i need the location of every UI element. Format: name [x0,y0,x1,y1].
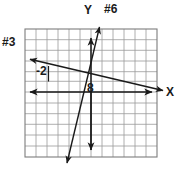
line-6-label: #6 [104,3,117,15]
line-3-label: #3 [2,36,15,48]
neg-two-label: -2 [36,65,47,77]
graph-figure: Y X #6 #3 -2 8 [0,0,183,172]
x-axis-label: X [166,86,174,98]
y-axis-label: Y [84,4,92,16]
eight-label: 8 [87,82,94,94]
